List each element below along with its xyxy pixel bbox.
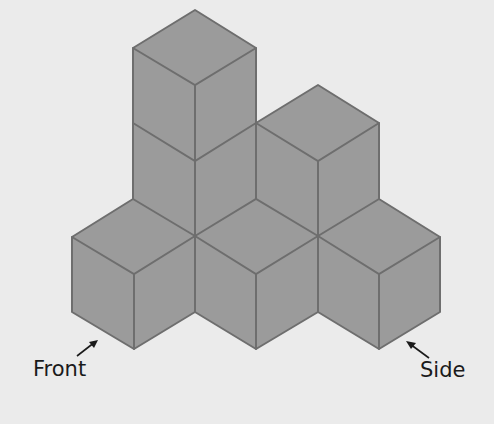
front-label: Front (33, 359, 86, 380)
front-arrow-icon (77, 340, 98, 356)
side-label: Side (420, 360, 465, 381)
side-arrow-icon (406, 341, 429, 358)
